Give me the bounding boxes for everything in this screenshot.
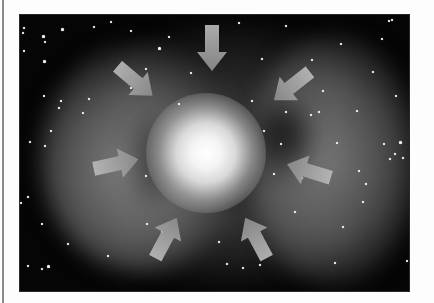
star	[318, 111, 320, 113]
star	[41, 223, 43, 225]
star	[20, 202, 22, 204]
star	[394, 153, 396, 155]
star	[310, 114, 312, 116]
star	[110, 21, 112, 23]
star	[399, 141, 402, 144]
star	[43, 95, 45, 97]
star	[391, 19, 393, 21]
star	[107, 255, 109, 257]
star	[168, 36, 170, 38]
star	[178, 103, 180, 105]
star	[130, 30, 132, 32]
star	[42, 35, 45, 38]
star	[362, 201, 364, 203]
star	[261, 58, 263, 60]
star	[273, 173, 275, 175]
star	[27, 265, 29, 267]
star	[358, 170, 360, 172]
star	[334, 262, 336, 264]
left-margin-rule	[2, 0, 4, 303]
star	[406, 260, 408, 262]
star	[388, 20, 390, 22]
star	[41, 268, 43, 270]
star	[47, 265, 50, 268]
star	[389, 158, 391, 160]
star	[285, 111, 287, 113]
star	[58, 107, 60, 109]
star	[82, 112, 84, 114]
star	[259, 264, 261, 266]
star	[29, 141, 31, 143]
star	[294, 211, 296, 213]
star	[251, 100, 253, 102]
star	[242, 267, 244, 269]
star	[365, 183, 367, 185]
star	[88, 98, 90, 100]
star	[61, 28, 64, 31]
star	[218, 241, 220, 243]
collapsing-core-glow	[146, 93, 266, 213]
star	[336, 142, 338, 144]
star	[285, 25, 287, 27]
star	[263, 130, 265, 132]
star	[226, 263, 228, 265]
star	[67, 243, 69, 245]
star	[145, 175, 147, 177]
star	[44, 145, 46, 147]
star	[402, 157, 404, 159]
star	[27, 196, 29, 198]
star	[356, 110, 358, 112]
star	[342, 226, 344, 228]
star	[43, 60, 46, 63]
star	[93, 26, 95, 28]
star	[395, 95, 397, 97]
star	[340, 43, 342, 45]
star	[158, 47, 161, 50]
star	[280, 143, 282, 145]
star	[311, 59, 313, 61]
star	[383, 143, 385, 145]
star	[146, 223, 148, 225]
star	[190, 72, 192, 74]
star	[23, 50, 25, 52]
star	[381, 38, 383, 40]
star	[322, 90, 324, 92]
star	[23, 27, 25, 29]
star	[44, 41, 46, 43]
star	[372, 71, 374, 73]
star	[238, 22, 240, 24]
star	[22, 32, 24, 34]
star	[60, 100, 62, 102]
star	[50, 130, 52, 132]
arrow-top-icon	[197, 25, 227, 71]
nebula-illustration	[19, 14, 410, 292]
figure-page	[0, 0, 434, 303]
